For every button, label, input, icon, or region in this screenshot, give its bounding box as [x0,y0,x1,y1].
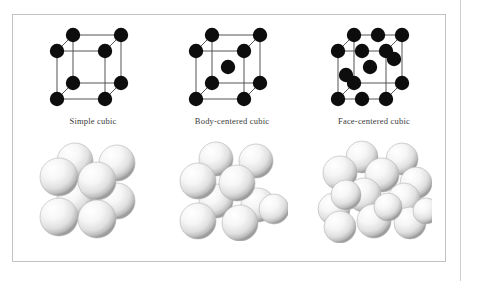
panel-row: Simple cubic [13,15,445,261]
corner-atom [205,28,219,42]
face-center-atom-bottom [355,92,369,106]
panel-simple-cubic: Simple cubic [21,15,165,261]
lattice-atoms [50,28,128,106]
lattice-diagram-face-centered-cubic [324,25,424,115]
caption-face-centered-cubic: Face-centered cubic [301,116,447,126]
sphere-group [180,142,288,241]
sphere [180,163,216,199]
figure-page: Simple cubic [0,0,477,281]
sphere-group [318,141,432,243]
corner-atom [50,92,64,106]
sphere-body-center [219,165,255,201]
corner-atom [253,76,267,90]
corner-atom [98,44,112,58]
lattice-atoms [189,28,267,106]
corner-atom [205,76,219,90]
corner-atom [98,92,112,106]
packing-model-simple-cubic [39,137,147,241]
cube-edges [57,35,121,99]
packing-model-face-centered-cubic [316,137,432,243]
sphere [259,194,288,224]
sphere [180,203,216,239]
page-margin-rule [460,0,461,281]
face-center-atom-left [339,68,353,82]
sphere [78,200,116,238]
lattice-diagram-body-centered-cubic [184,25,280,115]
sphere-group [40,143,135,238]
corner-atom [331,44,345,58]
corner-atom [331,92,345,106]
corner-atom [237,44,251,58]
corner-atom [50,44,64,58]
corner-atom [379,92,393,106]
sphere [40,158,78,196]
face-center-atom-right [387,52,401,66]
face-center-atom-top [371,28,385,42]
sphere [222,205,258,241]
panel-face-centered-cubic: Face-centered cubic [301,15,447,261]
corner-atom [66,76,80,90]
sphere [324,211,356,243]
corner-atom [114,76,128,90]
face-center-atom-back [355,44,369,58]
sphere [374,193,402,221]
corner-atom [237,92,251,106]
panel-body-centered-cubic: Body-centered cubic [157,15,307,261]
corner-atom [395,28,409,42]
corner-atom [347,28,361,42]
face-center-atom-front [363,60,377,74]
sphere [331,180,361,210]
caption-body-centered-cubic: Body-centered cubic [157,116,307,126]
corner-atom [395,76,409,90]
figure-frame: Simple cubic [12,14,446,262]
sphere [78,162,116,200]
lattice-atoms [331,28,409,106]
packing-model-body-centered-cubic [176,137,288,241]
corner-atom [253,28,267,42]
caption-simple-cubic: Simple cubic [21,116,165,126]
sphere [40,198,78,236]
corner-atom [66,28,80,42]
corner-atom [114,28,128,42]
body-center-atom [221,60,235,74]
lattice-diagram-simple-cubic [45,25,141,115]
corner-atom [189,92,203,106]
corner-atom [189,44,203,58]
